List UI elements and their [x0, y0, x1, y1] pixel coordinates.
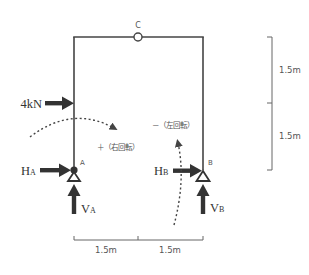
horizontal-dimension-left-label: 1.5m: [95, 245, 117, 255]
counterclockwise-arc: [174, 143, 181, 225]
support-a-triangle: [68, 172, 80, 181]
reaction-vb: VB: [197, 184, 225, 215]
moment-clockwise: ＋（右回転）: [30, 118, 139, 152]
horizontal-dimension: [74, 236, 203, 240]
reaction-vb-head: [197, 184, 210, 196]
reaction-vb-label: VB: [210, 201, 224, 215]
node-a-label: A: [80, 159, 85, 167]
reaction-ha-label: HA: [21, 164, 36, 178]
clockwise-arc: [30, 118, 114, 137]
node-c-label: C: [135, 21, 141, 30]
reaction-vb-shaft: [201, 194, 205, 214]
reaction-hb: HB: [154, 164, 202, 178]
reaction-ha-shaft: [40, 168, 61, 172]
reaction-ha: HA: [21, 164, 71, 179]
horizontal-dimension-right-label: 1.5m: [159, 245, 181, 255]
reaction-va-shaft: [72, 194, 76, 214]
frame-diagram: C A B 4kN HA VA HB VB: [0, 0, 309, 275]
vertical-dimension: [267, 37, 272, 170]
vertical-dimension-upper-label: 1.5m: [279, 65, 301, 75]
reaction-ha-head: [59, 164, 71, 178]
load-4kn-head: [62, 97, 74, 111]
reaction-va-label: VA: [81, 202, 96, 216]
node-b-label: B: [208, 159, 213, 167]
load-4kn-label: 4kN: [20, 97, 42, 111]
reaction-va-head: [68, 184, 81, 196]
counterclockwise-label: －（左回転）: [152, 120, 194, 130]
hinge-c: [134, 33, 142, 41]
clockwise-label: ＋（右回転）: [97, 142, 139, 152]
load-4kn-shaft: [45, 101, 64, 105]
reaction-va: VA: [68, 184, 97, 216]
vertical-dimension-lower-label: 1.5m: [279, 131, 301, 141]
reaction-hb-label: HB: [154, 164, 168, 178]
load-4kn: 4kN: [20, 97, 74, 111]
